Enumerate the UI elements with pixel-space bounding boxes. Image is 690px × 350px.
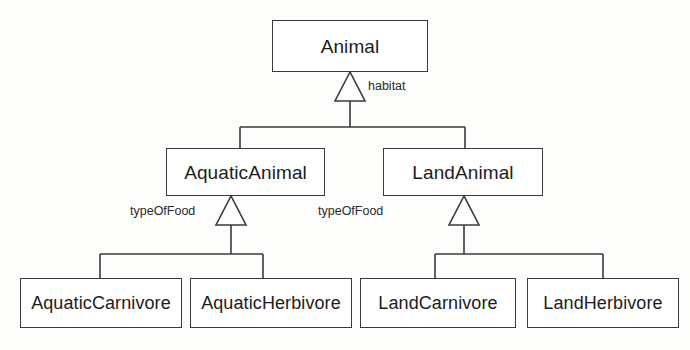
discriminator-label-type-of-food-aquatic: typeOfFood (130, 205, 195, 218)
class-name-land-herbivore: LandHerbivore (543, 294, 662, 312)
discriminator-label-type-of-food-land: typeOfFood (318, 205, 383, 218)
discriminator-label-habitat: habitat (368, 80, 406, 93)
class-name-land-animal: LandAnimal (412, 163, 513, 182)
uml-class-diagram: Animal AquaticAnimal LandAnimal AquaticC… (0, 0, 690, 350)
class-name-aquatic-animal: AquaticAnimal (184, 163, 307, 182)
generalization-triangle-habitat (335, 72, 365, 101)
class-box-aquatic-herbivore[interactable]: AquaticHerbivore (190, 278, 352, 328)
class-box-land-herbivore[interactable]: LandHerbivore (527, 278, 679, 328)
class-box-land-carnivore[interactable]: LandCarnivore (360, 278, 516, 328)
class-box-land-animal[interactable]: LandAnimal (383, 148, 543, 196)
class-box-animal[interactable]: Animal (272, 20, 428, 72)
class-name-aquatic-herbivore: AquaticHerbivore (201, 294, 341, 312)
class-box-aquatic-animal[interactable]: AquaticAnimal (166, 148, 325, 196)
generalization-triangle-land (449, 196, 479, 225)
generalization-triangle-aquatic (216, 196, 246, 225)
class-name-land-carnivore: LandCarnivore (378, 294, 497, 312)
class-name-animal: Animal (321, 37, 380, 56)
class-name-aquatic-carnivore: AquaticCarnivore (31, 294, 171, 312)
class-box-aquatic-carnivore[interactable]: AquaticCarnivore (20, 278, 182, 328)
